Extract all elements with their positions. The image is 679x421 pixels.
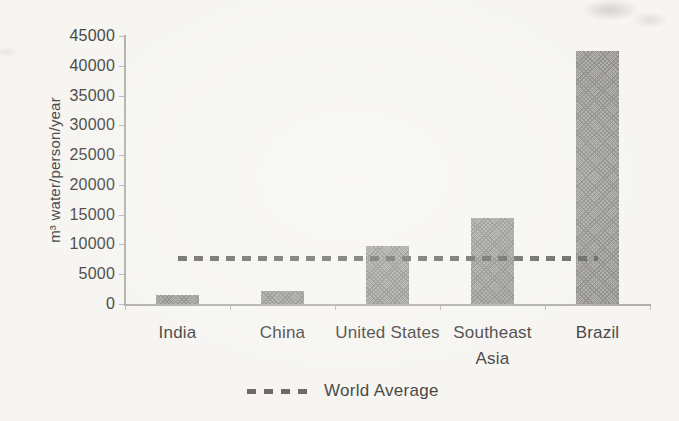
y-tick-label: 25000	[45, 146, 115, 164]
x-tick-mark	[335, 306, 336, 310]
bar-india	[156, 295, 199, 304]
x-tick-mark	[230, 306, 231, 310]
x-category-label-brazil: Brazil	[545, 320, 650, 372]
x-category-label-china: China	[230, 320, 335, 372]
y-tick-mark	[119, 125, 124, 126]
y-tick-mark	[119, 66, 124, 67]
y-tick-mark	[119, 155, 124, 156]
world-average-line	[178, 256, 598, 261]
x-tick-mark	[650, 306, 651, 310]
bar-united-states	[366, 246, 409, 304]
x-tick-mark	[440, 306, 441, 310]
x-category-label-india: India	[125, 320, 230, 372]
y-tick-mark	[119, 304, 124, 305]
x-category-label-united-states: United States	[335, 320, 440, 372]
y-tick-label: 10000	[45, 235, 115, 253]
x-axis-labels: IndiaChinaUnited StatesSoutheast AsiaBra…	[125, 320, 650, 372]
y-tick-label: 0	[45, 295, 115, 313]
y-axis-line	[124, 35, 126, 305]
y-tick-label: 45000	[45, 27, 115, 45]
y-tick-label: 15000	[45, 206, 115, 224]
y-tick-label: 20000	[45, 176, 115, 194]
legend-label: World Average	[324, 381, 439, 401]
x-tick-mark	[125, 306, 126, 310]
y-tick-label: 5000	[45, 265, 115, 283]
x-tick-mark	[545, 306, 546, 310]
bar-brazil	[576, 51, 619, 304]
y-tick-label: 35000	[45, 87, 115, 105]
y-tick-mark	[119, 185, 124, 186]
y-tick-label: 40000	[45, 57, 115, 75]
y-tick-mark	[119, 244, 124, 245]
y-tick-mark	[119, 215, 124, 216]
y-tick-mark	[119, 36, 124, 37]
bar-chart-figure: m³ water/person/year 4500040000350003000…	[0, 0, 679, 421]
y-tick-label: 30000	[45, 116, 115, 134]
bar-china	[261, 291, 304, 304]
dashed-line-icon	[247, 389, 313, 394]
legend: World Average	[247, 381, 439, 401]
x-axis-line	[124, 304, 651, 306]
x-category-label-southeast-asia: Southeast Asia	[440, 320, 545, 372]
y-tick-mark	[119, 96, 124, 97]
y-tick-mark	[119, 274, 124, 275]
